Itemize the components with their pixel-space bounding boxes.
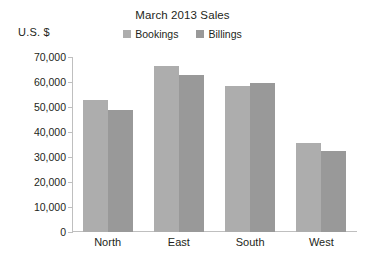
bar-north-billings [108,110,133,233]
bar-group [215,57,286,232]
y-axis-tick-label: 30,000 [34,151,66,163]
chart-title: March 2013 Sales [0,9,365,21]
bar-north-bookings [83,100,108,233]
y-axis-tick-label: 40,000 [34,126,66,138]
plot-area: 70,00060,00050,00040,00030,00020,00010,0… [72,57,357,232]
bar-east-billings [179,75,204,233]
bar-south-billings [250,83,275,232]
legend-item: Billings [196,28,241,40]
x-axis-label-west: West [286,236,357,248]
y-axis-tick-label: 10,000 [34,201,66,213]
chart-legend: BookingsBillings [0,28,365,40]
legend-swatch-icon [196,30,204,38]
legend-label: Billings [208,28,241,40]
bar-group [143,57,214,232]
bar-east-bookings [154,66,179,232]
x-axis-label-east: East [143,236,214,248]
y-axis-tick-label: 50,000 [34,101,66,113]
legend-swatch-icon [123,30,131,38]
y-axis-tick-label: 0 [60,226,66,238]
x-axis-label-north: North [72,236,143,248]
bar-chart: U.S. $ March 2013 Sales BookingsBillings… [0,0,365,269]
x-axis-label-south: South [215,236,286,248]
bar-west-bookings [296,143,321,232]
legend-item: Bookings [123,28,178,40]
bar-south-bookings [225,86,250,232]
bar-west-billings [321,151,346,232]
y-axis-tick-label: 70,000 [34,51,66,63]
bar-group [72,57,143,232]
legend-label: Bookings [135,28,178,40]
x-axis-labels: NorthEastSouthWest [72,236,357,248]
y-axis-tick-label: 20,000 [34,176,66,188]
y-axis-tick-label: 60,000 [34,76,66,88]
bar-group [286,57,357,232]
y-axis-tick [68,232,72,233]
bar-groups [72,57,357,232]
